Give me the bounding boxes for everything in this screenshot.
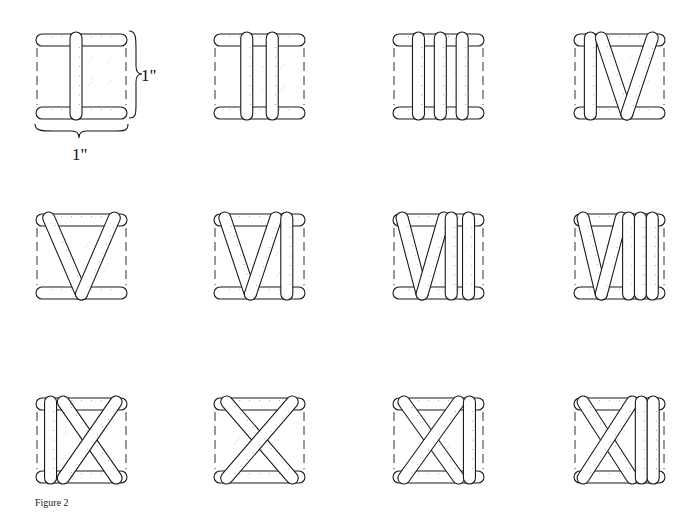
stipple-dot	[644, 440, 645, 441]
height-dimension-label: 1"	[141, 66, 156, 85]
stipple-dot	[91, 82, 92, 83]
stipple-dot	[91, 278, 92, 279]
stipple-dot	[632, 56, 633, 57]
stipple-dot	[290, 246, 291, 247]
stipple-dot	[471, 256, 472, 257]
stick-stroke	[584, 32, 596, 120]
stipple-dot	[247, 459, 248, 460]
stipple-dot	[229, 109, 230, 110]
stick-stroke	[45, 396, 57, 484]
stipple-dot	[619, 289, 620, 290]
stipple-dot	[444, 453, 445, 454]
stipple-dot	[614, 65, 615, 66]
stipple-dot	[89, 85, 90, 86]
stipple-dot	[288, 468, 289, 469]
stipple-dot	[645, 67, 646, 68]
stipple-dot	[104, 270, 105, 271]
stipple-dot	[106, 267, 107, 268]
stipple-dot	[253, 452, 254, 453]
stipple-dot	[51, 109, 52, 110]
stipple-dot	[428, 473, 429, 474]
stipple-dot	[259, 473, 260, 474]
stipple-dot	[93, 79, 94, 80]
stipple-dot	[69, 244, 70, 245]
stipple-dot	[421, 95, 422, 96]
stipple-dot	[61, 36, 62, 37]
stipple-dot	[465, 66, 466, 67]
stipple-dot	[607, 285, 608, 286]
stick-stroke	[412, 32, 424, 120]
stipple-dot	[111, 36, 112, 37]
stipple-dot	[595, 464, 596, 465]
stipple-dot	[610, 441, 611, 442]
stipple-dot	[619, 400, 620, 401]
stipple-dot	[643, 256, 644, 257]
stipple-dot	[249, 400, 250, 401]
stipple-dot	[619, 237, 620, 238]
stipple-dot	[88, 286, 89, 287]
stipple-dot	[281, 68, 282, 69]
stipple-dot	[454, 246, 455, 247]
stipple-dot	[430, 424, 431, 425]
numeral-tile-v	[36, 210, 127, 302]
stipple-dot	[652, 48, 653, 49]
stipple-dot	[103, 453, 104, 454]
stipple-dot	[97, 445, 98, 446]
stipple-dot	[617, 75, 618, 76]
stipple-dot	[465, 57, 466, 58]
stipple-dot	[609, 289, 610, 290]
stipple-dot	[454, 98, 455, 99]
stipple-dot	[449, 446, 450, 447]
stipple-dot	[235, 473, 236, 474]
stipple-dot	[250, 85, 251, 86]
stipple-dot	[91, 36, 92, 37]
stipple-dot	[438, 400, 439, 401]
stipple-dot	[237, 441, 238, 442]
stipple-dot	[630, 411, 631, 412]
stipple-dot	[600, 457, 601, 458]
stick-stroke	[463, 212, 475, 300]
stipple-dot	[89, 242, 90, 243]
stipple-dot	[81, 400, 82, 401]
stick-stroke	[241, 32, 253, 120]
stipple-dot	[472, 430, 473, 431]
stipple-dot	[639, 86, 640, 87]
stipple-dot	[428, 109, 429, 110]
stipple-dot	[61, 109, 62, 110]
stipple-dot	[472, 459, 473, 460]
stipple-dot	[655, 284, 656, 285]
stipple-dot	[101, 36, 102, 37]
stipple-dot	[270, 448, 271, 449]
stipple-dot	[91, 289, 92, 290]
stipple-dot	[284, 86, 285, 87]
stipple-dot	[609, 473, 610, 474]
stipple-dot	[275, 95, 276, 96]
stipple-dot	[249, 216, 250, 217]
stipple-dot	[630, 468, 631, 469]
stipple-dot	[655, 256, 656, 257]
stipple-dot	[91, 216, 92, 217]
stipple-dot	[438, 247, 439, 248]
stipple-dot	[465, 85, 466, 86]
stipple-dot	[472, 449, 473, 450]
stipple-dot	[259, 36, 260, 37]
stipple-dot	[643, 237, 644, 238]
stipple-dot	[259, 400, 260, 401]
stipple-dot	[408, 289, 409, 290]
stipple-dot	[614, 256, 615, 257]
stipple-dot	[95, 270, 96, 271]
stipple-dot	[609, 109, 610, 110]
stipple-dot	[643, 284, 644, 285]
stipple-dot	[465, 76, 466, 77]
stipple-dot	[279, 400, 280, 401]
stipple-dot	[81, 422, 82, 423]
stipple-dot	[615, 445, 616, 446]
stick-stroke	[70, 32, 82, 120]
stipple-dot	[269, 473, 270, 474]
stipple-dot	[418, 400, 419, 401]
stipple-dot	[609, 216, 610, 217]
stipple-dot	[92, 441, 93, 442]
stipple-dot	[455, 411, 456, 412]
stipple-dot	[250, 66, 251, 67]
stipple-dot	[79, 47, 80, 48]
